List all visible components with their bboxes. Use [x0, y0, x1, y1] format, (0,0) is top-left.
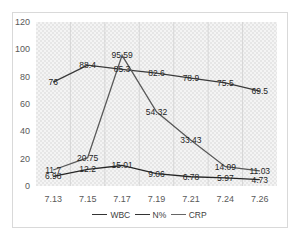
data-label: 54.32 — [146, 107, 168, 117]
legend-item-crp: CRP — [171, 210, 207, 220]
legend-item-n-percent: N% — [135, 210, 167, 220]
data-label: 9.06 — [148, 169, 165, 179]
x-tick-label: 7.19 — [148, 194, 166, 204]
data-label: 69.5 — [252, 86, 269, 96]
data-label: 78.9 — [183, 73, 200, 83]
legend-line-icon — [135, 214, 150, 215]
legend-item-wbc: WBC — [92, 210, 130, 220]
y-tick-label: 120 — [15, 17, 30, 27]
x-tick-label: 7.15 — [79, 194, 97, 204]
legend-line-icon — [92, 214, 107, 215]
data-label: 14.09 — [215, 162, 237, 172]
y-axis: 020406080100120 — [15, 17, 30, 191]
data-label: 11.03 — [249, 166, 270, 176]
y-tick-label: 20 — [20, 154, 30, 164]
x-axis: 7.137.157.177.197.217.247.26 — [44, 194, 268, 204]
data-label: 75.5 — [217, 78, 234, 88]
x-tick-label: 7.21 — [182, 194, 200, 204]
data-label: 11.7 — [45, 165, 61, 175]
data-label: 95.59 — [111, 50, 133, 60]
data-label: 4.73 — [252, 175, 269, 185]
y-tick-label: 40 — [20, 126, 30, 136]
x-tick-label: 7.13 — [44, 194, 62, 204]
data-label: 82.6 — [148, 68, 165, 78]
y-tick-label: 100 — [15, 44, 30, 54]
y-tick-label: 0 — [25, 181, 30, 191]
data-label: 33.43 — [180, 135, 202, 145]
data-label: 85.3 — [114, 64, 131, 74]
data-label: 12.2 — [79, 164, 96, 174]
x-tick-label: 7.24 — [217, 194, 235, 204]
legend: WBC N% CRP — [0, 207, 299, 220]
plot-area — [36, 22, 277, 186]
data-label: 88.4 — [79, 60, 96, 70]
data-label: 15.01 — [111, 160, 133, 170]
legend-line-icon — [171, 214, 186, 215]
data-label: 5.97 — [217, 173, 234, 183]
data-label: 20.75 — [77, 153, 99, 163]
x-tick-label: 7.17 — [113, 194, 131, 204]
x-tick-label: 7.26 — [251, 194, 269, 204]
y-tick-label: 60 — [20, 99, 30, 109]
data-label: 6.78 — [183, 172, 200, 182]
y-tick-label: 80 — [20, 72, 30, 82]
line-chart: 020406080100120 7.137.157.177.197.217.24… — [0, 0, 299, 240]
data-label: 76 — [48, 77, 58, 87]
